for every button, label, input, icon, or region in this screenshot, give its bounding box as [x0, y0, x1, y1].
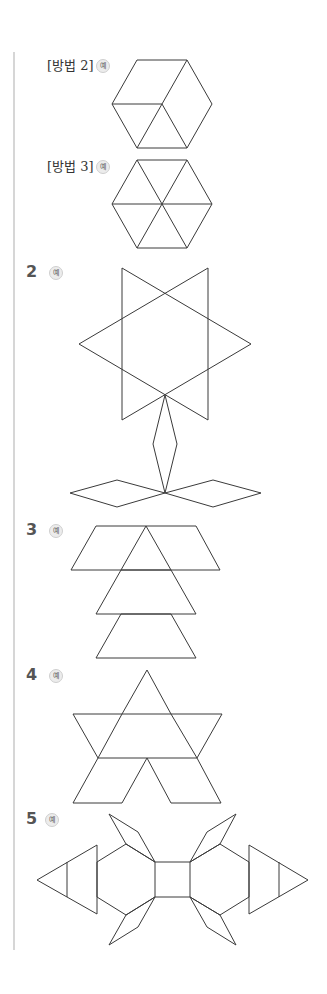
hexagon-method-2-figure [112, 60, 212, 148]
hexagon-method-3-figure [112, 160, 212, 248]
tower-figure [71, 526, 220, 658]
pattern-block-figures [0, 0, 327, 994]
bowtie-figure [37, 814, 308, 945]
star-figure [73, 670, 222, 803]
star-flower-figure [70, 268, 261, 507]
